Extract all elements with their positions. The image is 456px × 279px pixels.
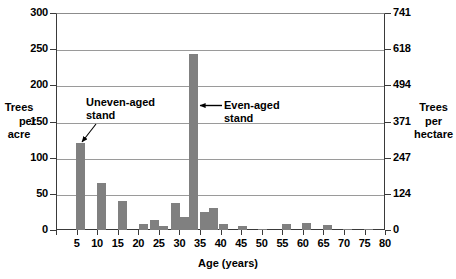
chart-figure: 300 250 200 150 100 50 0 741 618 494 371… [0,0,456,279]
annotation-arrows [0,0,456,279]
arrow-uneven-aged [82,124,96,142]
